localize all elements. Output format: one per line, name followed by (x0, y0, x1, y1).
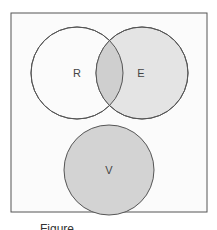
set-r-label: R (73, 67, 81, 79)
figure-caption: Figure ... (40, 222, 87, 230)
venn-diagram: R E V (0, 0, 217, 230)
set-e-label: E (137, 67, 144, 79)
set-v-label: V (105, 164, 113, 176)
